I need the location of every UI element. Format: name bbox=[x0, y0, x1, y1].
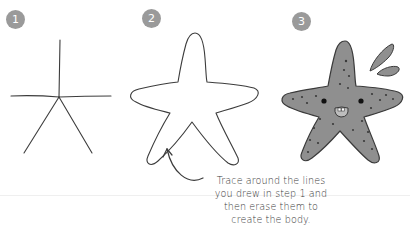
caption-line-1: Trace around the lines bbox=[199, 174, 343, 187]
step-2-starfish-outline-icon bbox=[131, 33, 259, 165]
starfish-mouth bbox=[335, 107, 348, 117]
caption-line-2: you drew in step 1 and bbox=[199, 187, 343, 200]
splash-drops-icon bbox=[370, 44, 399, 76]
starfish-left-eye bbox=[321, 98, 326, 103]
curved-arrow-icon bbox=[163, 149, 203, 180]
step-3-finished-starfish-icon bbox=[282, 41, 403, 163]
instruction-caption: Trace around the lines you drew in step … bbox=[199, 174, 343, 226]
caption-line-3: then erase them to bbox=[199, 200, 343, 213]
caption-line-4: create the body. bbox=[199, 213, 343, 226]
step-1-stick-lines-icon bbox=[11, 40, 111, 153]
starfish-right-eye bbox=[358, 98, 363, 103]
